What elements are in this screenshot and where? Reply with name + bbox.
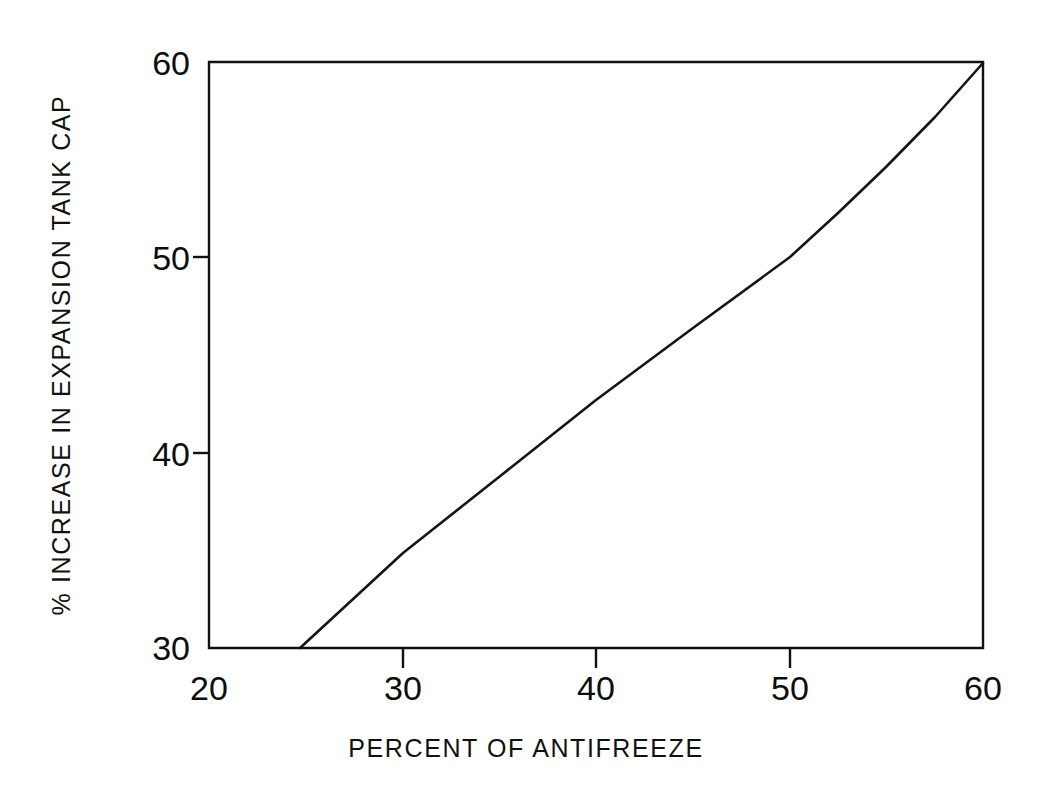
chart-page: 60 50 40 30 20 30 40 50 60 PERCENT OF AN… [0,0,1053,809]
x-tick-label-60: 60 [964,669,1002,707]
y-tick-label-50: 50 [152,239,190,277]
y-tick-label-30: 30 [152,629,190,667]
figure-background [0,0,1053,809]
y-tick-label-60: 60 [152,44,190,82]
x-tick-label-40: 40 [577,669,615,707]
x-axis-title: PERCENT OF ANTIFREEZE [348,734,703,762]
x-tick-label-30: 30 [384,669,422,707]
line-chart-figure: 60 50 40 30 20 30 40 50 60 PERCENT OF AN… [0,0,1053,809]
y-axis-title: % INCREASE IN EXPANSION TANK CAP [47,95,75,616]
y-tick-label-40: 40 [152,435,190,473]
x-tick-label-20: 20 [190,669,228,707]
x-tick-label-50: 50 [771,669,809,707]
